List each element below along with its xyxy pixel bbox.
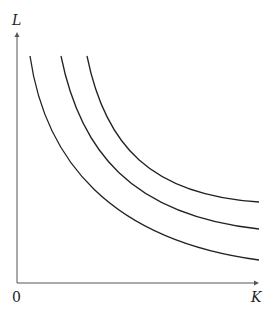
x-axis-arrow-icon (254, 281, 259, 286)
isoquant-curve-3 (87, 56, 259, 202)
x-axis-label: K (250, 289, 263, 305)
isoquant-curve-1 (30, 56, 259, 260)
y-axis-label: L (11, 12, 21, 28)
isoquant-diagram: L K 0 (0, 0, 275, 314)
isoquant-curve-2 (61, 56, 259, 229)
y-axis-arrow-icon (15, 32, 20, 37)
origin-label: 0 (12, 289, 21, 305)
